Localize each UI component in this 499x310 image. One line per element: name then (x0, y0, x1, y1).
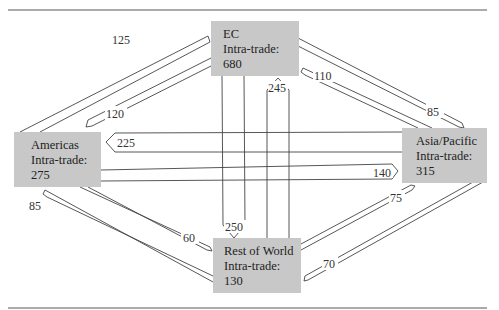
region-label: Intra-trade: (224, 259, 301, 274)
flow-arrow-ec-americas (86, 58, 211, 127)
region-label: Intra-trade: (416, 149, 487, 164)
flow-label-asia-row: 70 (323, 257, 335, 271)
flow-label-ec-asia: 85 (427, 105, 439, 119)
region-name: EC (223, 27, 299, 42)
region-value: 315 (416, 164, 487, 179)
flow-label-asia-ec: 110 (314, 69, 332, 83)
flow-label-row-ec: 245 (268, 81, 286, 95)
region-name: Americas (31, 138, 101, 153)
region-name: Asia/Pacific (416, 134, 487, 149)
flow-label-americas-row: 60 (183, 231, 195, 245)
flow-label-americas-ec: 125 (112, 33, 130, 47)
flow-label-ec-americas: 120 (106, 107, 124, 121)
flow-label-row-americas: 85 (29, 199, 41, 213)
flow-arrow-asia-americas (106, 132, 402, 152)
flow-arrow-row-ec (267, 78, 289, 238)
region-box-rest-of-world: Rest of World Intra-trade: 130 (213, 238, 301, 293)
flow-label-ec-row: 250 (225, 220, 243, 234)
flow-arrow-ec-row (222, 75, 245, 238)
flow-label-asia-americas: 225 (117, 136, 135, 150)
region-value: 275 (31, 168, 101, 183)
region-value: 130 (224, 274, 301, 289)
region-box-ec: EC Intra-trade: 680 (211, 21, 299, 76)
flow-label-row-asia: 75 (390, 191, 402, 205)
region-label: Intra-trade: (31, 153, 101, 168)
flow-arrow-americas-asia (101, 164, 398, 181)
region-box-americas: Americas Intra-trade: 275 (14, 132, 101, 187)
region-value: 680 (223, 57, 299, 72)
region-name: Rest of World (224, 244, 301, 259)
flow-label-americas-asia: 140 (373, 166, 391, 180)
region-label: Intra-trade: (223, 42, 299, 57)
region-box-asia-pacific: Asia/Pacific Intra-trade: 315 (402, 128, 487, 183)
